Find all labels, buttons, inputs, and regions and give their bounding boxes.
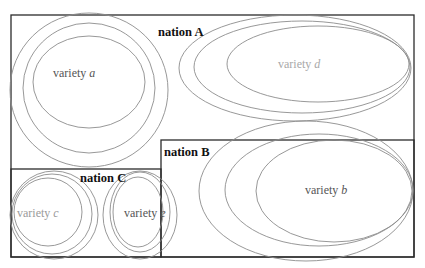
variety-b-label: variety b bbox=[305, 183, 347, 197]
variety-d-label: variety d bbox=[278, 57, 321, 71]
nation-a-box bbox=[11, 15, 414, 257]
variety-c-label: variety c bbox=[17, 206, 59, 220]
variety-a-ellipses bbox=[10, 13, 168, 167]
variety-a-label: variety a bbox=[53, 66, 95, 80]
diagram-canvas: nation A nation B nation C variety a var… bbox=[0, 0, 425, 268]
nation-c-label: nation C bbox=[80, 171, 126, 185]
nation-b-label: nation B bbox=[164, 145, 210, 159]
nation-a-label: nation A bbox=[158, 25, 204, 39]
variety-e-label: variety e bbox=[124, 206, 166, 220]
